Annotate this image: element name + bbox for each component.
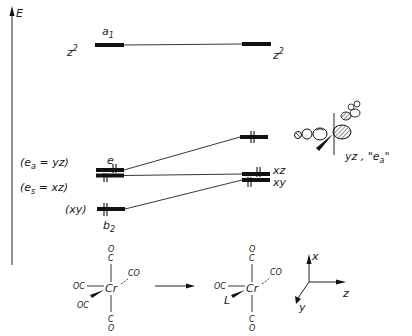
x-arrow-icon xyxy=(307,254,312,264)
a1-right-orbital-label: z2 xyxy=(272,47,284,62)
ea-to-yz-line xyxy=(124,137,240,170)
z-arrow-icon xyxy=(336,280,346,285)
top-c: C xyxy=(249,254,255,263)
energy-axis-label: E xyxy=(16,7,23,20)
z-axis-label: z xyxy=(342,287,349,300)
chromium-label: Cr xyxy=(246,282,260,295)
xy-label: xy xyxy=(272,176,287,189)
b2-level-left: (xy) b2 xyxy=(65,203,125,234)
bottom-c: C xyxy=(108,315,114,324)
mo-energy-diagram: E a1 z2 z2 e (ea = yz) (es = xz) (xy) b2 xyxy=(0,0,412,336)
x-axis-label: x xyxy=(311,250,319,263)
b2-symmetry-label: b2 xyxy=(103,219,115,234)
yz-orbital-caption: yz , "ea" xyxy=(344,150,390,165)
left-oc: OC xyxy=(214,282,226,291)
b2-orbital-label: (xy) xyxy=(65,203,87,216)
top-c: C xyxy=(108,254,114,263)
a1-level: a1 z2 z2 xyxy=(66,25,284,62)
levels-right: xz xy xyxy=(240,131,287,189)
b2-to-xy-line xyxy=(125,180,242,209)
energy-axis: E xyxy=(10,6,24,265)
a1-correlation-line xyxy=(124,44,242,45)
top-o: O xyxy=(249,245,255,254)
yz-orbital-sketch: yz , "ea" xyxy=(295,101,390,165)
molecule-cr-co5l: O C Cr OC CO L C O xyxy=(214,245,282,333)
reaction-arrow xyxy=(155,284,195,289)
bottom-o: O xyxy=(249,324,255,333)
correlation-lines xyxy=(124,137,242,209)
arrow-head-icon xyxy=(186,284,195,289)
y-axis-label: y xyxy=(298,301,306,314)
molecule-cr-co6: O C Cr OC CO OC C O xyxy=(73,245,140,333)
e-symmetry-label: e xyxy=(107,154,114,167)
chromium-label: Cr xyxy=(105,282,119,295)
left-oc: OC xyxy=(73,282,85,291)
back-co: CO xyxy=(128,269,140,278)
e-s-label: (es = xz) xyxy=(20,181,68,196)
es-to-xz-line xyxy=(124,174,242,176)
a1-symmetry-label: a1 xyxy=(102,25,114,40)
ligand-l: L xyxy=(224,294,230,307)
e-a-label: (ea = yz) xyxy=(20,156,69,171)
e-levels-left: e (ea = yz) (es = xz) xyxy=(20,154,124,196)
a1-left-orbital-label: z2 xyxy=(66,44,78,59)
bottom-c: C xyxy=(249,315,255,324)
back-co: CO xyxy=(270,268,282,277)
front-oc: OC xyxy=(77,301,89,310)
top-o: O xyxy=(108,245,114,254)
bottom-o: O xyxy=(108,324,114,333)
coordinate-axes: x z y xyxy=(295,250,349,314)
axis-arrow-icon xyxy=(10,6,15,16)
